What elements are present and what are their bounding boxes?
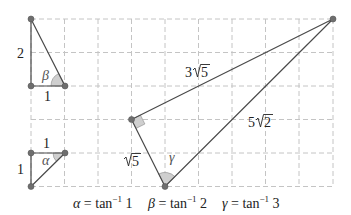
beta-vertical-leg-label: 2 (17, 46, 24, 61)
beta-vertex-top (28, 16, 34, 22)
caption-alpha: α = tan−1 1 (73, 194, 132, 211)
alpha-vertex-corner (28, 150, 34, 156)
beta-vertex-right (62, 83, 68, 89)
caption-gamma: γ = tan−1 3 (222, 194, 280, 211)
beta-horizontal-leg-label: 1 (44, 89, 51, 104)
dashed-grid (31, 19, 333, 187)
caption: α = tan−1 1 β = tan−1 2 γ = tan−1 3 (73, 194, 280, 211)
alpha-vertical-leg-label: 1 (17, 162, 24, 177)
svg-text:3: 3 (185, 65, 192, 80)
caption-beta: β = tan−1 2 (147, 194, 207, 211)
alpha-triangle: 1 1 α (17, 136, 68, 190)
gamma-angle-label: γ (169, 150, 175, 165)
gamma-vertex-right-angle (129, 117, 135, 123)
hypotenuse-label: 5 2 (248, 115, 273, 131)
beta-angle-label: β (41, 68, 49, 83)
alpha-vertex-right (62, 150, 68, 156)
gamma-triangle: 3 5 5 2 5 γ (124, 16, 336, 190)
svg-text:5: 5 (201, 65, 208, 80)
beta-triangle: 2 1 β (17, 16, 68, 104)
alpha-top-leg-label: 1 (43, 136, 50, 151)
short-leg-label: 5 (124, 154, 141, 170)
svg-text:5: 5 (132, 154, 139, 169)
svg-text:5: 5 (248, 115, 255, 130)
alpha-angle-label: α (42, 153, 50, 168)
tangent-triangles-diagram: 2 1 β 1 1 α 3 5 5 2 (0, 0, 351, 215)
long-leg-label: 3 5 (185, 65, 210, 81)
svg-text:2: 2 (264, 115, 271, 130)
alpha-vertex-bottom (28, 184, 34, 190)
beta-vertex-corner (28, 83, 34, 89)
gamma-vertex-top-right (330, 16, 336, 22)
gamma-vertex-bottom (162, 184, 168, 190)
